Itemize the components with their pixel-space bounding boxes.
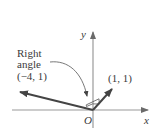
origin-label: O — [84, 114, 92, 126]
vector-diagram: y x O Right angle (−4, 1) (1, 1) — [0, 0, 161, 132]
y-axis-label: y — [80, 28, 86, 40]
annotation-pointer-arrow — [50, 62, 87, 96]
vector-neg4-1-label: (−4, 1) — [17, 70, 47, 83]
vector-neg4-1-arrow — [20, 92, 93, 110]
x-axis-label: x — [143, 114, 149, 126]
annotation-line-2: angle — [17, 58, 41, 70]
vector-1-1-arrow — [93, 89, 112, 110]
vector-1-1-label: (1, 1) — [108, 72, 132, 85]
